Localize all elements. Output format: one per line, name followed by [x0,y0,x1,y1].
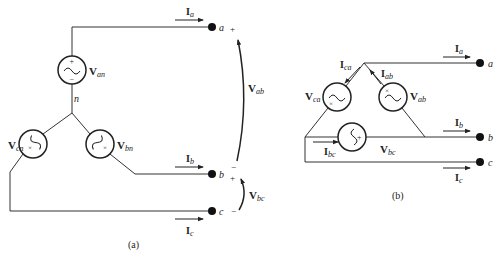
wire-b [110,154,210,174]
plus-sign: + [70,57,75,66]
label-van: Van [89,65,105,79]
terminal-c-dot [208,207,216,215]
caption-b: (b) [392,190,404,202]
terminal-a-label: a [219,22,224,33]
wire-ab-right [402,108,425,137]
terminal-a-dot [208,23,216,31]
label-ic-b: Ic [455,172,463,185]
wire-c [10,154,210,211]
terminal-b-label: b [219,169,224,180]
polarity-c-minus: − [231,206,236,216]
source-van: + − [58,56,86,84]
label-vab-a: Vab [248,82,264,96]
terminal-c-dot-b [476,158,484,166]
label-iab: Iab [381,68,393,81]
polarity-b-plus: + [230,173,235,183]
terminal-c-label: c [219,206,224,217]
source-vab: × [379,83,407,111]
wire-a [72,27,210,56]
label-ia-b: Ia [455,43,463,56]
terminal-a-dot-b [476,59,484,67]
polarity-a-plus: + [230,24,235,34]
polarity-b-minus: − [231,162,236,172]
source-vca: × [323,83,351,111]
cross-mark: × [28,144,32,152]
label-vca: Vca [305,90,321,104]
terminal-b-dot-b [476,133,484,141]
label-vbc-b: Vbc [380,143,396,157]
cross-mark: × [329,100,333,108]
cross-mark: × [385,87,389,95]
terminal-a-label-b: a [488,58,493,69]
plus-sign: + [357,133,362,142]
wire-n-cn [43,113,72,134]
minus-sign: − [70,75,75,84]
current-arrow-iab [370,70,381,84]
label-ic: Ic [186,225,194,238]
terminal-c-label-b: c [488,157,493,168]
label-vbc-a: Vbc [249,189,265,203]
terminal-b-label-b: b [488,132,493,143]
terminal-b-dot [208,170,216,178]
figure-a-wye-connection [10,27,210,211]
label-vab-b: Vab [410,90,426,104]
source-vbc: + [338,123,366,151]
label-vbn: Vbn [117,139,133,153]
label-ib: Ib [186,153,194,166]
caption-a: (a) [128,239,139,251]
label-ibc: Ibc [324,146,336,159]
label-ib-b: Ib [455,117,463,130]
voltage-arrow-vab [237,40,244,161]
source-vbn: × [86,130,114,158]
label-ica: Ica [340,59,351,72]
label-node-n: n [74,93,79,104]
wire-n-bn [72,113,90,134]
label-ia: Ia [186,6,194,19]
cross-mark: × [103,144,107,152]
wire-ca-left [305,108,328,137]
voltage-arrow-vbc [239,179,244,210]
